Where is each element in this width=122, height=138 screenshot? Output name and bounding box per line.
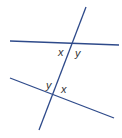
angle-diagram: x y y x: [0, 0, 122, 138]
transversal-line: [39, 7, 86, 130]
label-upper-left: x: [57, 46, 64, 58]
label-lower-left: y: [45, 79, 53, 91]
label-upper-right: y: [74, 47, 82, 59]
upper-line: [10, 41, 119, 45]
label-lower-right: x: [60, 83, 67, 95]
